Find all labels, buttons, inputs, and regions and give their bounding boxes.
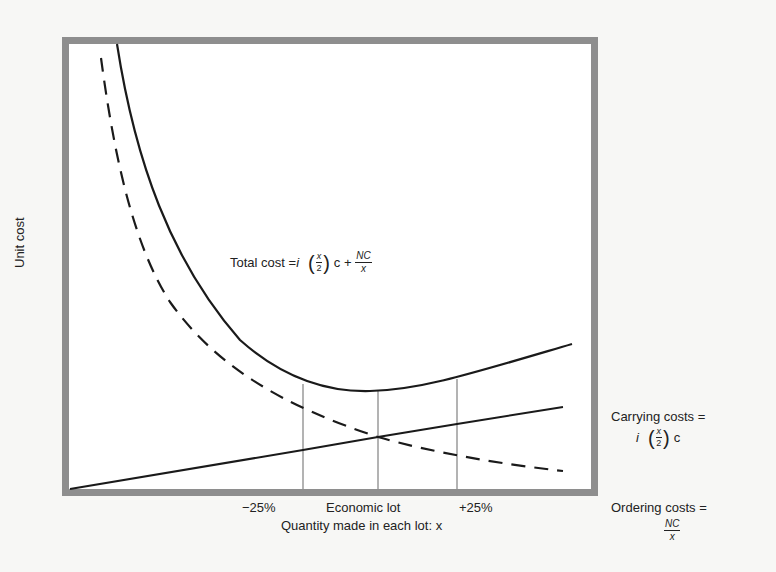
tick-minus-25: −25% [242,500,276,515]
total-cost-prefix: Total cost = [230,255,296,270]
ordering-costs-title: Ordering costs = [611,500,707,515]
interest-symbol: i [296,255,299,270]
y-axis-label: Unit cost [12,217,27,268]
tick-plus-25: +25% [459,500,493,515]
carrying-costs-formula: i ( x 2 ) c [636,427,680,448]
paren-close: ) [323,253,330,273]
total-cost-formula: Total cost = i ( x 2 ) c + NC x [230,251,372,274]
chart-canvas [0,0,776,572]
x-axis-label: Quantity made in each lot: x [281,518,442,533]
plus-sign: + [340,255,355,270]
nc-over-x-fraction: NC x [355,251,371,274]
paren-open: ( [308,253,315,273]
ordering-costs-formula: NC x [664,519,680,542]
x-over-2-fraction: x 2 [316,252,323,273]
carrying-costs-title: Carrying costs = [611,409,705,424]
tick-economic-lot: Economic lot [326,500,400,515]
